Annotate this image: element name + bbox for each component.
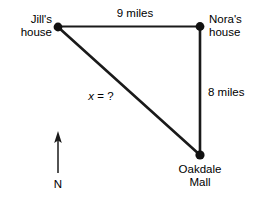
- label-oakdale-mall: Oakdale Mall: [179, 163, 222, 188]
- label-distance-eight-miles: 8 miles: [208, 86, 244, 99]
- label-jills-house-line2: house: [21, 26, 52, 39]
- diagram-canvas: Jill's house Nora's house Oakdale Mall 9…: [0, 0, 274, 212]
- label-oakdale-mall-line1: Oakdale: [179, 163, 222, 176]
- label-noras-house-line2: house: [209, 26, 242, 39]
- label-noras-house: Nora's house: [209, 13, 242, 38]
- vertex-dot-jills-house: [54, 23, 63, 32]
- label-jills-house: Jill's house: [21, 13, 52, 38]
- vertex-dot-oakdale-mall: [195, 150, 204, 159]
- vertex-dot-noras-house: [196, 22, 205, 31]
- north-arrow-icon: [54, 131, 62, 173]
- label-noras-house-line1: Nora's: [209, 13, 242, 26]
- label-north-direction: N: [54, 178, 62, 191]
- edge-oakdale-to-jills: [59, 28, 201, 156]
- label-oakdale-mall-line2: Mall: [179, 176, 222, 189]
- label-jills-house-line1: Jill's: [21, 13, 52, 26]
- label-distance-nine-miles: 9 miles: [117, 7, 153, 20]
- label-unknown-equals: = ?: [94, 90, 114, 102]
- label-unknown-distance: x = ?: [88, 90, 113, 103]
